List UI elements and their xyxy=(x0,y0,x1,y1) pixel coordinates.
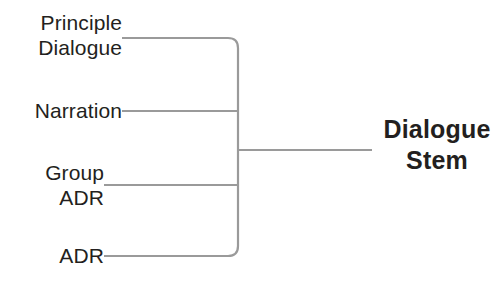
brace-diagram: Principle Dialogue Narration Group ADR A… xyxy=(0,0,502,289)
bracket-corner-top xyxy=(228,38,238,48)
input-label-group-adr: Group ADR xyxy=(0,160,104,210)
input-label-principle-dialogue: Principle Dialogue xyxy=(0,10,122,60)
bracket-corner-bottom xyxy=(228,246,238,256)
input-label-narration: Narration xyxy=(0,98,122,123)
input-label-adr: ADR xyxy=(0,243,104,268)
output-label-dialogue-stem: Dialogue Stem xyxy=(374,114,500,176)
